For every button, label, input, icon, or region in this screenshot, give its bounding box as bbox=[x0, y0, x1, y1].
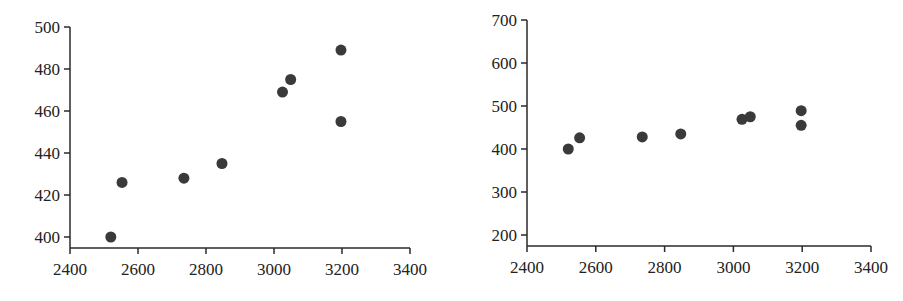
data-point-marker bbox=[637, 131, 648, 142]
x-tick-label: 2400 bbox=[510, 258, 544, 277]
x-tick-label: 2600 bbox=[579, 258, 613, 277]
y-tick-label: 600 bbox=[492, 54, 518, 73]
x-tick-label: 2800 bbox=[648, 258, 682, 277]
data-point-marker bbox=[117, 177, 128, 188]
data-point-marker bbox=[178, 173, 189, 184]
x-tick-label: 3400 bbox=[854, 258, 888, 277]
left-scatter-chart: 4004204404604805002400260028003000320034… bbox=[35, 18, 428, 279]
y-tick-label: 500 bbox=[35, 18, 61, 37]
data-point-marker bbox=[216, 158, 227, 169]
data-point-marker bbox=[335, 45, 346, 56]
data-point-marker bbox=[105, 232, 116, 243]
x-tick-label: 3400 bbox=[393, 260, 427, 279]
y-tick-label: 440 bbox=[35, 144, 61, 163]
data-point-marker bbox=[563, 144, 574, 155]
y-tick-label: 400 bbox=[492, 140, 518, 159]
x-tick-label: 2800 bbox=[189, 260, 223, 279]
scatter-charts: 4004204404604805002400260028003000320034… bbox=[0, 0, 903, 301]
x-tick-label: 3000 bbox=[257, 260, 291, 279]
x-tick-label: 3200 bbox=[785, 258, 819, 277]
y-tick-label: 300 bbox=[492, 183, 518, 202]
data-point-marker bbox=[285, 74, 296, 85]
y-tick-label: 200 bbox=[492, 226, 518, 245]
data-point-marker bbox=[796, 105, 807, 116]
x-tick-label: 2600 bbox=[121, 260, 155, 279]
data-point-marker bbox=[335, 116, 346, 127]
x-tick-label: 3000 bbox=[716, 258, 750, 277]
y-tick-label: 400 bbox=[35, 228, 61, 247]
data-point-marker bbox=[745, 111, 756, 122]
data-point-marker bbox=[796, 120, 807, 131]
y-tick-label: 500 bbox=[492, 97, 518, 116]
data-point-marker bbox=[675, 128, 686, 139]
right-scatter-chart: 2003004005006007002400260028003000320034… bbox=[492, 11, 889, 277]
data-point-marker bbox=[574, 132, 585, 143]
y-tick-label: 480 bbox=[35, 60, 61, 79]
x-tick-label: 3200 bbox=[325, 260, 359, 279]
data-point-marker bbox=[277, 87, 288, 98]
y-tick-label: 420 bbox=[35, 186, 61, 205]
x-tick-label: 2400 bbox=[53, 260, 87, 279]
y-tick-label: 700 bbox=[492, 11, 518, 30]
y-tick-label: 460 bbox=[35, 102, 61, 121]
